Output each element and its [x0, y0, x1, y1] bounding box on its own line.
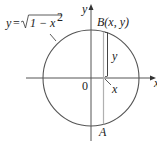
x-marker-label: x — [111, 82, 118, 96]
origin-label: 0 — [82, 79, 88, 93]
y-axis-label: y — [81, 2, 88, 16]
equation-pointer — [50, 34, 56, 41]
x-axis-label: x — [153, 76, 157, 90]
x-marker-pointer — [105, 79, 111, 85]
equation-equals: = — [13, 16, 20, 30]
equation-lhs: y — [5, 16, 12, 30]
equation-radicand: 1 − x — [30, 16, 56, 30]
y-axis-arrow-icon — [89, 4, 94, 10]
y-height-label: y — [111, 49, 118, 63]
equation-exponent: 2 — [57, 10, 63, 24]
diagram-canvas: y = 1 − x 2 y x B(x, y) A 0 x y — [0, 0, 157, 154]
point-B-label: B(x, y) — [97, 15, 129, 29]
point-A-label: A — [98, 125, 107, 139]
